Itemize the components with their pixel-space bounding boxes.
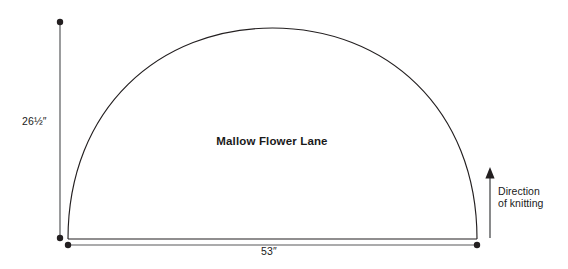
width-dimension-left-dot [65,242,71,248]
direction-label-line-1: Direction [498,185,544,197]
direction-label-line-2: of knitting [498,197,544,209]
up-arrow-icon [485,167,494,179]
width-dimension-label: 53″ [261,245,277,257]
width-dimension-right-dot [474,242,480,248]
height-dimension-top-dot [57,19,63,25]
height-dimension-bottom-dot [57,235,63,241]
schematic-diagram: 26½″ 53″ Mallow Flower Lane Direction of… [0,0,568,269]
shawl-arc-outline [68,28,477,239]
direction-of-knitting-label: Direction of knitting [498,185,544,210]
height-dimension-label: 26½″ [22,115,47,127]
shape-name-label: Mallow Flower Lane [204,135,340,149]
